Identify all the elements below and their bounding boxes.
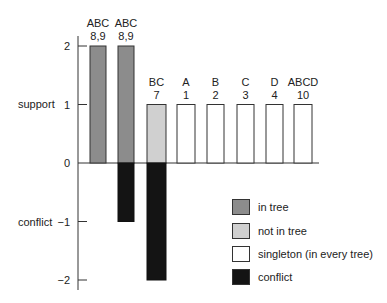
legend-label: singleton (in every tree) bbox=[258, 248, 373, 260]
legend-label: not in tree bbox=[258, 225, 307, 237]
legend-label: conflict bbox=[258, 271, 292, 283]
conflict-bar bbox=[118, 163, 134, 222]
bar-label-id: 1 bbox=[183, 89, 189, 101]
bar-label-taxa: ABC bbox=[87, 17, 110, 29]
y-tick-label: −2 bbox=[57, 274, 70, 286]
legend-swatch-singleton bbox=[232, 246, 250, 262]
support-bar bbox=[118, 46, 134, 163]
y-label-support: support bbox=[18, 98, 55, 110]
legend-swatch-not-in-tree bbox=[232, 223, 250, 239]
bar-label-taxa: A bbox=[182, 76, 190, 88]
bar-label-id: 4 bbox=[271, 89, 277, 101]
bar-label-id: 2 bbox=[212, 89, 218, 101]
support-bar bbox=[147, 105, 166, 164]
legend-label: in tree bbox=[258, 201, 289, 213]
legend-item-not-in-tree: not in tree bbox=[232, 222, 307, 240]
support-bar bbox=[294, 105, 312, 164]
bar-label-id: 7 bbox=[153, 89, 159, 101]
y-tick-label: 0 bbox=[64, 157, 70, 169]
bar-label-id: 8,9 bbox=[118, 30, 133, 42]
bar-label-taxa: BC bbox=[149, 76, 164, 88]
support-bar bbox=[177, 105, 195, 164]
bar-label-id: 10 bbox=[297, 89, 309, 101]
support-bar bbox=[207, 105, 224, 164]
legend-swatch-in-tree bbox=[232, 199, 250, 215]
bar-label-taxa: B bbox=[212, 76, 219, 88]
y-tick-label: 1 bbox=[64, 99, 70, 111]
conflict-bar bbox=[147, 163, 166, 280]
bar-label-id: 8,9 bbox=[90, 30, 105, 42]
legend-item-conflict: conflict bbox=[232, 268, 292, 286]
legend-item-singleton: singleton (in every tree) bbox=[232, 245, 373, 263]
support-bar bbox=[266, 105, 283, 164]
support-bar bbox=[237, 105, 254, 164]
bar-label-taxa: ABCD bbox=[288, 76, 319, 88]
support-bar bbox=[90, 46, 106, 163]
bar-label-taxa: D bbox=[271, 76, 279, 88]
y-label-conflict: conflict bbox=[18, 216, 52, 228]
y-tick-label: 2 bbox=[64, 40, 70, 52]
legend-swatch-conflict bbox=[232, 269, 250, 285]
y-tick-label: −1 bbox=[57, 216, 70, 228]
bar-label-taxa: C bbox=[242, 76, 250, 88]
bar-label-id: 3 bbox=[242, 89, 248, 101]
legend-item-in-tree: in tree bbox=[232, 198, 289, 216]
bar-label-taxa: ABC bbox=[115, 17, 138, 29]
